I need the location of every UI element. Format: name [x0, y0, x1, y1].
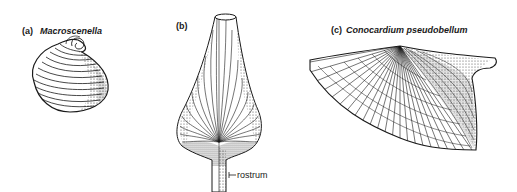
panel-a: (a) Macroscenella	[22, 26, 109, 112]
panel-a-tag: (a)	[22, 26, 33, 36]
panel-b-tag: (b)	[176, 21, 188, 31]
panel-c: (c) Conocardium pseudobellum	[310, 25, 496, 150]
panel-a-title: Macroscenella	[40, 26, 102, 36]
conocardium-shell-illustration	[310, 46, 496, 150]
macroscenella-shell-illustration	[32, 36, 108, 112]
figure-canvas: (a) Macroscenella	[0, 0, 517, 192]
panel-c-title: Conocardium pseudobellum	[346, 25, 468, 35]
panel-c-tag: (c)	[331, 25, 342, 35]
rostroconch-shell-illustration: rostrum	[177, 14, 268, 192]
panel-b: (b)	[176, 14, 268, 192]
rostrum-label: rostrum	[237, 170, 268, 180]
